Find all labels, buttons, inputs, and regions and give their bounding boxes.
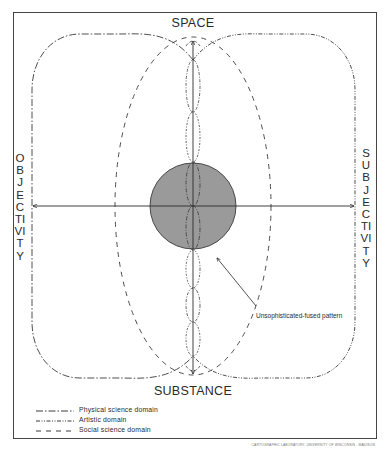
long-dash-dot-line-icon	[36, 409, 74, 413]
dashed-line-icon	[36, 429, 74, 433]
axis-label-objectivity: OBJECTIVITY	[14, 152, 26, 262]
axis-label-substance: SUBSTANCE	[0, 384, 386, 398]
dash-dot-dot-line-icon	[36, 419, 74, 423]
legend-label: Social science domain	[79, 426, 151, 433]
axis-label-subjectivity: SUBJECTIVITY	[360, 147, 372, 269]
credit-line: CARTOGRAPHIC LABORATORY, UNIVERSITY OF W…	[252, 443, 376, 447]
legend-label: Physical science domain	[79, 406, 158, 413]
legend-label: Artistic domain	[79, 416, 127, 423]
annotation-arrow	[217, 258, 256, 306]
axis-label-space: SPACE	[0, 16, 386, 30]
annotation-label: Unsophisticated-fused pattern	[256, 312, 342, 319]
domain-diagram: SPACE SUBSTANCE OBJECTIVITY SUBJECTIVITY…	[0, 0, 386, 454]
